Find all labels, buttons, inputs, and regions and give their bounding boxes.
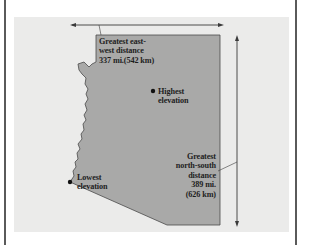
- highest-elevation-label: Highest elevation: [158, 87, 188, 106]
- east-west-distance-label: Greatest east- west distance 337 mi.(542…: [99, 37, 154, 65]
- highest-elevation-marker: [151, 89, 155, 93]
- east-west-arrow: [70, 23, 224, 35]
- north-south-distance-label: Greatest north-south distance 389 mi. (6…: [160, 152, 216, 199]
- lowest-elevation-label: Lowest elevation: [77, 173, 107, 192]
- lowest-elevation-marker: [68, 180, 72, 184]
- north-south-arrow: [218, 35, 239, 227]
